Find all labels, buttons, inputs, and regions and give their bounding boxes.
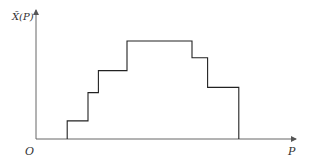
origin-label: O (25, 145, 34, 158)
step-chart: X̃(P) O P (0, 0, 309, 165)
step-function-line (67, 41, 239, 139)
y-axis-label: X̃(P) (11, 11, 34, 22)
x-axis-label: P (287, 145, 296, 158)
